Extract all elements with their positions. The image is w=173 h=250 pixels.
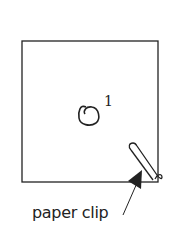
step-number: 1 bbox=[104, 93, 113, 109]
paper-clip-icon bbox=[129, 143, 162, 180]
arrow-icon bbox=[123, 170, 142, 215]
fold-symbol-icon bbox=[79, 106, 99, 125]
paper-square bbox=[22, 41, 158, 182]
paper-clip-label: paper clip bbox=[32, 203, 108, 222]
